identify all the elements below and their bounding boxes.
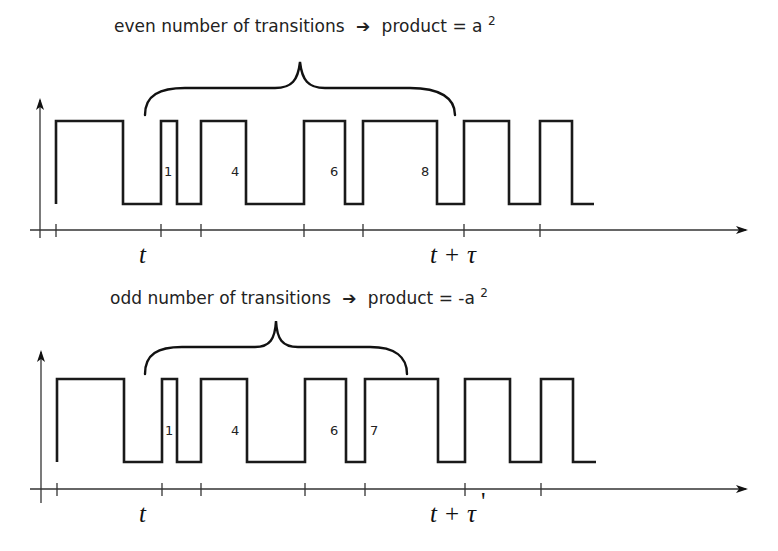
square-wave-even — [56, 121, 594, 204]
caption-even-prefix: even number of transitions — [114, 16, 345, 36]
caption-odd-prefix: odd number of transitions — [110, 288, 331, 308]
svg-text:+: + — [445, 241, 459, 268]
svg-text:t: t — [430, 241, 438, 268]
svg-text:τ: τ — [467, 500, 477, 527]
transition-label-4: 4 — [231, 164, 239, 179]
svg-text:t: t — [430, 500, 438, 527]
tick-label-t-plus-tau: t + τ — [430, 241, 477, 268]
caption-odd: odd number of transitions ➔ product = -a… — [110, 286, 488, 308]
right-arrow-icon: ➔ — [342, 288, 356, 308]
transition-label-8: 8 — [421, 164, 429, 179]
caption-even: even number of transitions ➔ product = a… — [114, 14, 496, 36]
square-wave-odd — [57, 379, 596, 462]
tick-label-t: t — [139, 500, 147, 527]
right-arrow-icon: ➔ — [356, 16, 370, 36]
panel-even-transitions: even number of transitions ➔ product = a… — [30, 14, 746, 268]
tick-label-t-plus-tau-prime: t + τ ' — [430, 488, 486, 527]
panel-odd-transitions: odd number of transitions ➔ product = -a… — [30, 286, 746, 527]
transition-label-7: 7 — [370, 423, 378, 438]
transition-label-6: 6 — [330, 423, 338, 438]
tick-label-t: t — [139, 241, 147, 268]
svg-text:+: + — [445, 500, 459, 527]
transition-label-4: 4 — [231, 423, 239, 438]
caption-odd-product: product = -a — [368, 288, 475, 308]
transition-label-1: 1 — [165, 423, 173, 438]
brace-even — [145, 62, 455, 115]
svg-text:': ' — [481, 488, 486, 515]
caption-even-superscript: 2 — [488, 14, 496, 28]
transition-label-1: 1 — [164, 164, 172, 179]
caption-odd-superscript: 2 — [480, 286, 488, 300]
transition-label-6: 6 — [330, 164, 338, 179]
brace-odd — [145, 321, 407, 374]
telegraph-signal-diagram: even number of transitions ➔ product = a… — [0, 0, 778, 551]
svg-text:τ: τ — [467, 241, 477, 268]
caption-even-product: product = a — [382, 16, 483, 36]
